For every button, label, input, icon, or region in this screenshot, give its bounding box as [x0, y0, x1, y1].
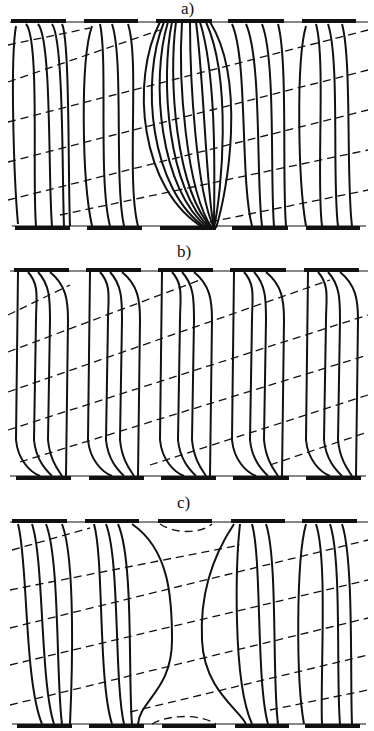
- streamlines-c: [18, 524, 352, 724]
- dashed-lines-b: [8, 280, 368, 465]
- dashed-lines-c: [10, 528, 368, 712]
- panel-a: [8, 21, 368, 228]
- streamlines-a: [13, 22, 352, 228]
- panel-b: [8, 270, 368, 478]
- panel-c: [10, 521, 368, 726]
- streamlines-b: [16, 272, 358, 476]
- field-line-diagram: .wall{stroke:#111;stroke-width:1.2;fill:…: [0, 0, 374, 731]
